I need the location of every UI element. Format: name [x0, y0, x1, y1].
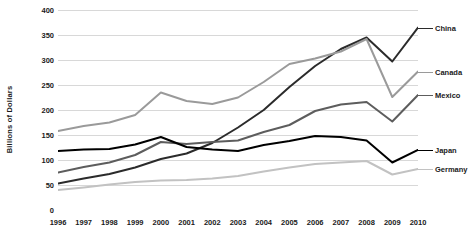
legend-label-canada: Canada [435, 67, 462, 76]
legend-swatch-japan [418, 150, 433, 151]
y-axis-tick-200: 200 [20, 106, 54, 115]
chart-legend: ChinaCanadaMexicoJapanGermany [418, 0, 476, 238]
series-line-china [58, 28, 418, 184]
y-axis-tick-0: 0 [20, 206, 54, 215]
series-line-germany [58, 161, 418, 190]
series-lines [58, 10, 418, 210]
legend-label-germany: Germany [435, 165, 468, 174]
y-axis-tick-labels: 050100150200250300350400 [20, 0, 54, 238]
legend-label-china: China [435, 23, 456, 32]
legend-swatch-mexico [418, 95, 433, 96]
y-axis-title-text: Billions of Dollars [6, 85, 15, 153]
legend-swatch-china [418, 28, 433, 29]
legend-swatch-canada [418, 72, 433, 73]
legend-label-japan: Japan [435, 146, 457, 155]
y-axis-title: Billions of Dollars [2, 0, 18, 238]
x-axis-tick-labels: 1996199719981999200020012002200320042005… [58, 212, 418, 234]
y-axis-tick-250: 250 [20, 81, 54, 90]
series-line-canada [58, 39, 418, 131]
y-axis-tick-300: 300 [20, 56, 54, 65]
line-chart: Billions of Dollars 05010015020025030035… [0, 0, 476, 238]
y-axis-tick-150: 150 [20, 131, 54, 140]
legend-swatch-germany [418, 169, 433, 170]
y-axis-tick-50: 50 [20, 181, 54, 190]
plot-area [58, 10, 418, 210]
y-axis-tick-350: 350 [20, 31, 54, 40]
y-axis-tick-400: 400 [20, 6, 54, 15]
legend-label-mexico: Mexico [435, 91, 460, 100]
y-axis-tick-100: 100 [20, 156, 54, 165]
